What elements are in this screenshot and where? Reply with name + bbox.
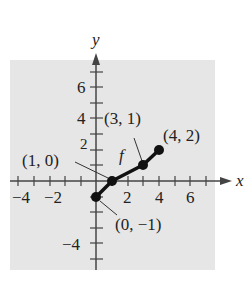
y-axis-label: y (92, 31, 100, 48)
point-0-m1 (91, 192, 101, 202)
tick-y-minus4: −4 (62, 236, 80, 253)
tick-y-2: 2 (80, 137, 88, 152)
label-point-3-1: (3, 1) (104, 110, 141, 127)
function-graph (0, 0, 252, 287)
x-axis-label: x (236, 172, 244, 189)
y-axis-arrow-icon (92, 53, 100, 65)
tick-x-minus2: −2 (44, 189, 62, 206)
tick-x-4: 4 (155, 189, 164, 206)
point-1-0 (107, 176, 117, 186)
label-point-1-0: (1, 0) (22, 152, 59, 169)
x-axis-arrow-icon (220, 177, 232, 185)
label-point-0-m1: (0, −1) (115, 216, 161, 233)
tick-x-2: 2 (123, 189, 132, 206)
tick-x-6: 6 (186, 189, 195, 206)
point-4-2 (154, 145, 164, 155)
function-label-f: f (119, 147, 124, 164)
tick-y-4: 4 (77, 110, 86, 127)
tick-y-6: 6 (77, 79, 86, 96)
label-point-4-2: (4, 2) (163, 127, 200, 144)
tick-x-minus4: −4 (12, 189, 30, 206)
point-3-1 (138, 160, 148, 170)
